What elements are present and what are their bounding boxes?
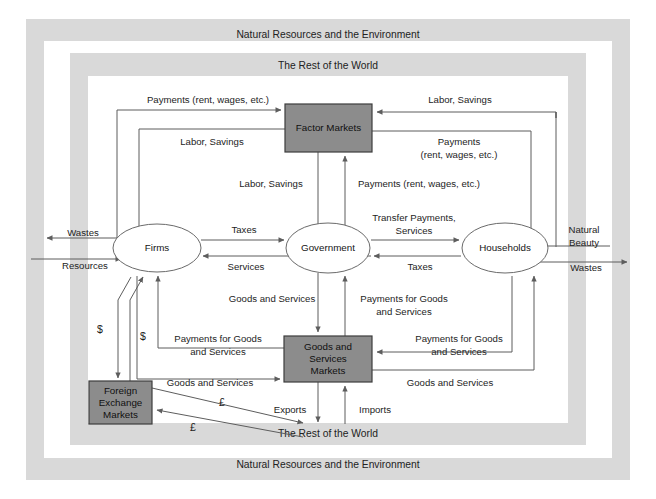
label-government-to-factor-payments: Payments (rent, wages, etc.) (358, 178, 480, 189)
label-factor-to-government-labor: Labor, Savings (239, 178, 303, 189)
label-goods-exports: Exports (274, 404, 307, 415)
label-dollar-1: $ (97, 323, 103, 335)
label-firms-to-government-taxes: Taxes (231, 224, 256, 235)
outer-frame-top-label: Natural Resources and the Environment (236, 29, 419, 40)
label-goods-to-firms-payments-2: and Services (190, 346, 246, 357)
label-env-natural-beauty-2: Beauty (569, 237, 599, 248)
foreign-exchange-label-line2: Exchange (99, 397, 143, 408)
node-households[interactable]: Households (462, 223, 548, 273)
node-foreign-exchange-markets[interactable]: Foreign Exchange Markets (89, 381, 152, 424)
foreign-exchange-label-line3: Markets (103, 409, 138, 420)
label-env-resources-left: Resources (62, 260, 108, 271)
goods-markets-label-line1: Goods and (304, 341, 352, 352)
label-government-to-households-transfer-1: Transfer Payments, (372, 212, 455, 223)
households-label: Households (479, 242, 531, 253)
label-goods-to-government-payments-1: Payments for Goods (360, 293, 448, 304)
label-env-wastes-right: Wastes (570, 262, 602, 273)
label-goods-to-households-gs: Goods and Services (407, 377, 494, 388)
label-firms-to-factor-payments: Payments (rent, wages, etc.) (147, 94, 269, 105)
label-households-to-factor-labor: Labor, Savings (428, 94, 492, 105)
label-env-natural-beauty-1: Natural (569, 224, 600, 235)
label-goods-to-firms-payments-1: Payments for Goods (174, 333, 262, 344)
goods-markets-label-line3: Markets (311, 365, 346, 376)
circular-flow-diagram: Natural Resources and the Environment Na… (0, 0, 656, 499)
middle-frame-bottom-label: The Rest of the World (278, 428, 378, 439)
factor-markets-label: Factor Markets (296, 122, 361, 133)
label-pound-1: £ (219, 396, 225, 408)
label-government-to-goods-gs: Goods and Services (229, 293, 316, 304)
node-goods-services-markets[interactable]: Goods and Services Markets (284, 336, 372, 382)
node-firms[interactable]: Firms (113, 224, 201, 272)
label-government-to-households-transfer-2: Services (396, 225, 433, 236)
label-households-to-goods-payments-1: Payments for Goods (415, 333, 503, 344)
label-goods-imports: Imports (359, 404, 391, 415)
label-households-to-goods-payments-2: and Services (431, 346, 487, 357)
firms-label: Firms (145, 242, 170, 253)
label-factor-to-firms-labor: Labor, Savings (180, 136, 244, 147)
government-label: Government (301, 242, 355, 253)
figure-canvas: Natural Resources and the Environment Na… (0, 0, 656, 499)
label-goods-to-government-payments-2: and Services (376, 306, 432, 317)
label-dollar-2: $ (140, 330, 146, 342)
node-factor-markets[interactable]: Factor Markets (285, 104, 372, 152)
outer-frame-bottom-label: Natural Resources and the Environment (236, 459, 419, 470)
label-factor-to-households-payments-1: Payments (438, 136, 481, 147)
label-households-to-government-taxes: Taxes (407, 261, 432, 272)
goods-markets-label-line2: Services (309, 353, 347, 364)
label-government-to-firms-services: Services (228, 261, 265, 272)
label-pound-2: £ (190, 421, 196, 433)
foreign-exchange-label-line1: Foreign (104, 385, 137, 396)
middle-frame-top-label: The Rest of the World (278, 60, 378, 71)
node-government[interactable]: Government (286, 223, 370, 273)
label-env-wastes-left: Wastes (67, 227, 99, 238)
label-factor-to-households-payments-2: (rent, wages, etc.) (421, 149, 498, 160)
label-firms-to-goods-gs: Goods and Services (167, 377, 254, 388)
